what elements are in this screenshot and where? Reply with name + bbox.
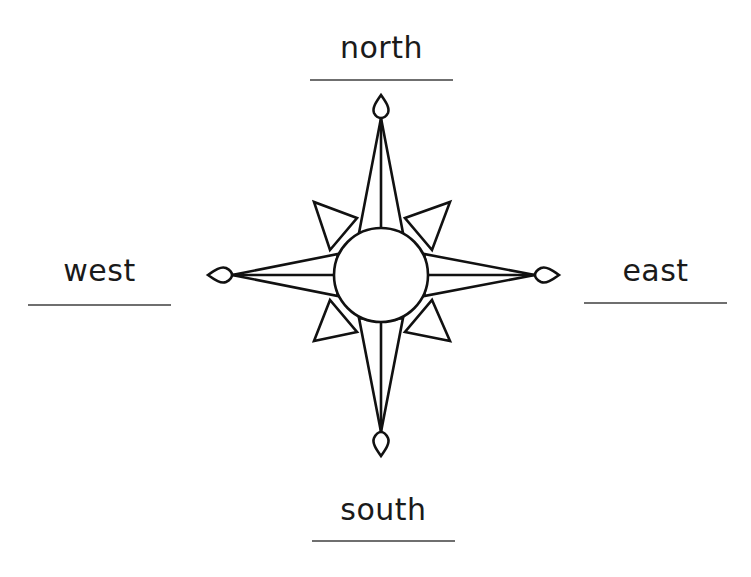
east-tip-icon	[535, 267, 559, 282]
compass-center-circle	[334, 228, 428, 322]
west-tip-icon	[208, 267, 232, 282]
compass-rose	[0, 0, 751, 577]
north-tip-icon	[373, 95, 388, 118]
south-tip-icon	[373, 432, 388, 456]
